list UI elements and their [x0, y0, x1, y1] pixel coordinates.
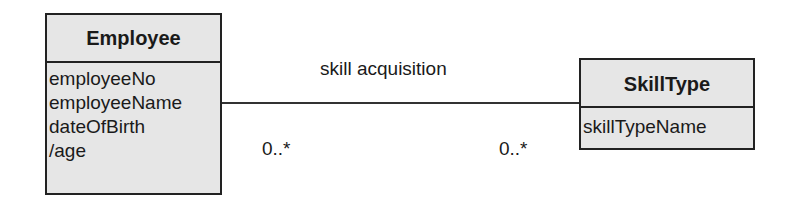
- association-name: skill acquisition: [320, 58, 447, 80]
- multiplicity-employee-end: 0..*: [262, 138, 291, 160]
- attribute-age-derived: /age: [47, 139, 220, 163]
- association-line: [222, 102, 579, 104]
- attribute-skill-type-name: skillTypeName: [581, 115, 753, 139]
- attribute-date-of-birth: dateOfBirth: [47, 115, 220, 139]
- multiplicity-skilltype-end: 0..*: [499, 138, 528, 160]
- skilltype-attributes: skillTypeName: [581, 108, 753, 139]
- employee-class-name: Employee: [47, 15, 220, 63]
- employee-class-box: Employee employeeNo employeeName dateOfB…: [45, 13, 222, 195]
- attribute-employee-name: employeeName: [47, 91, 220, 115]
- attribute-employee-no: employeeNo: [47, 67, 220, 91]
- skilltype-class-box: SkillType skillTypeName: [579, 58, 755, 150]
- employee-attributes: employeeNo employeeName dateOfBirth /age: [47, 63, 220, 163]
- skilltype-class-name: SkillType: [581, 60, 753, 108]
